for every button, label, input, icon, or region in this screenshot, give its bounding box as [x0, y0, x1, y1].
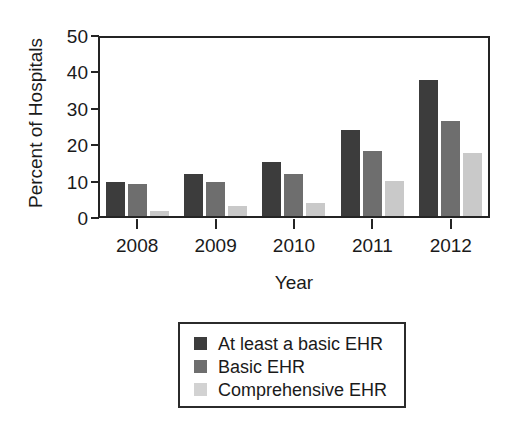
chart-legend: At least a basic EHRBasic EHRComprehensi… — [178, 322, 406, 408]
legend-swatch-icon — [194, 383, 207, 396]
x-tick-mark — [215, 219, 217, 229]
bar — [306, 203, 325, 216]
bar — [228, 206, 247, 216]
bar-group — [100, 38, 178, 216]
bar — [341, 130, 360, 216]
bar — [463, 153, 482, 216]
legend-item: At least a basic EHR — [194, 332, 404, 355]
y-tick-mark — [91, 35, 99, 37]
x-tick-label: 2011 — [327, 235, 417, 257]
bars-container — [100, 38, 488, 216]
bar — [262, 162, 281, 216]
legend-label: Comprehensive EHR — [218, 381, 387, 399]
y-tick-mark — [91, 217, 99, 219]
y-tick-label: 50 — [46, 27, 88, 46]
y-tick-mark — [91, 144, 99, 146]
y-tick-mark — [91, 181, 99, 183]
bar — [106, 182, 125, 216]
bar — [184, 174, 203, 216]
x-tick-label: 2009 — [171, 235, 261, 257]
y-tick-mark — [91, 108, 99, 110]
y-axis-title: Percent of Hospitals — [25, 23, 47, 223]
bar — [128, 184, 147, 216]
x-tick-label: 2012 — [406, 235, 496, 257]
x-axis-title: Year — [98, 272, 490, 294]
x-tick-mark — [450, 219, 452, 229]
y-tick-label: 0 — [46, 209, 88, 228]
y-tick-label: 40 — [46, 63, 88, 82]
legend-swatch-icon — [194, 360, 207, 373]
bar-group — [178, 38, 256, 216]
bar — [363, 151, 382, 216]
legend-swatch-icon — [194, 337, 207, 350]
bar-group — [257, 38, 335, 216]
bar — [441, 121, 460, 216]
y-tick-label: 20 — [46, 136, 88, 155]
x-tick-label: 2008 — [92, 235, 182, 257]
bar — [206, 182, 225, 216]
x-tick-mark — [371, 219, 373, 229]
legend-label: At least a basic EHR — [218, 335, 383, 353]
y-tick-label: 30 — [46, 100, 88, 119]
y-axis-tick-labels: 01020304050 — [46, 36, 88, 218]
legend-label: Basic EHR — [218, 358, 305, 376]
y-tick-mark — [91, 71, 99, 73]
x-tick-label: 2010 — [249, 235, 339, 257]
bar — [150, 211, 169, 216]
plot-area — [98, 36, 490, 218]
bar-chart-figure: Percent of Hospitals 01020304050 2008200… — [0, 0, 514, 433]
bar — [385, 181, 404, 216]
bar — [419, 80, 438, 217]
legend-item: Comprehensive EHR — [194, 378, 404, 401]
x-tick-mark — [136, 219, 138, 229]
x-tick-mark — [293, 219, 295, 229]
bar-group — [414, 38, 492, 216]
legend-item: Basic EHR — [194, 355, 404, 378]
bar-group — [335, 38, 413, 216]
bar — [284, 174, 303, 216]
y-tick-label: 10 — [46, 173, 88, 192]
